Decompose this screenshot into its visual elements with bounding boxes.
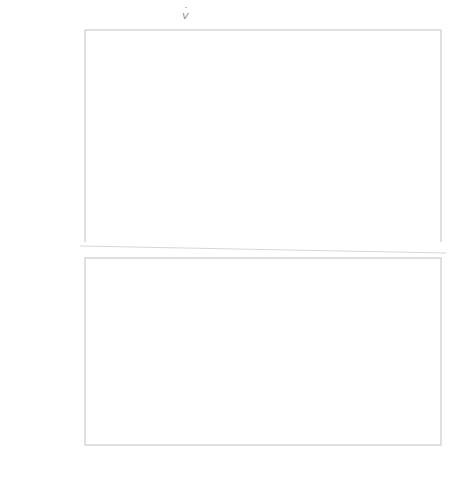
vo2max-dot-icon: · xyxy=(184,2,187,12)
top-chart-frame xyxy=(85,30,441,242)
figure-svg: V · xyxy=(0,0,453,484)
chart-muscle-glycogen xyxy=(85,30,441,242)
vo2max-v-symbol: V xyxy=(182,11,189,21)
chart-perceived-exertion xyxy=(85,258,441,445)
figure-panel: V · xyxy=(0,0,453,484)
bottom-chart-frame xyxy=(85,258,441,445)
figure-title: V · xyxy=(182,2,189,21)
panel-separator xyxy=(80,246,446,253)
